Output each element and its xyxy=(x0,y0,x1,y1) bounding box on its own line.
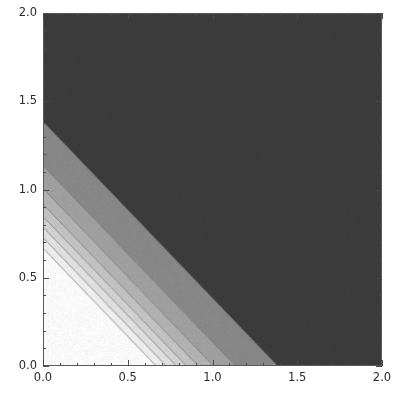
x-axis-top-tick xyxy=(196,13,197,16)
x-axis-top-tick xyxy=(213,13,214,19)
x-axis-top-tick xyxy=(60,13,61,16)
x-axis-tick xyxy=(314,363,315,366)
y-axis-right-tick xyxy=(379,348,382,349)
x-axis-top-tick xyxy=(94,13,95,16)
y-axis-tick xyxy=(43,278,49,279)
y-axis-tick xyxy=(43,101,49,102)
contour-plot-figure: 0.00.51.01.52.00.00.51.01.52.0 xyxy=(0,0,401,409)
y-axis-right-tick xyxy=(379,119,382,120)
y-axis-right-tick xyxy=(379,260,382,261)
x-axis-tick xyxy=(382,360,383,366)
x-axis-top-tick xyxy=(128,13,129,19)
y-axis-tick xyxy=(43,119,46,120)
x-axis-tick xyxy=(246,363,247,366)
y-axis-tick xyxy=(43,348,46,349)
x-axis-tick xyxy=(77,363,78,366)
x-axis-top-tick xyxy=(77,13,78,16)
y-axis-right-tick xyxy=(376,101,382,102)
y-axis-tick xyxy=(43,313,46,314)
x-axis-tick xyxy=(196,363,197,366)
y-axis-right-tick xyxy=(376,366,382,367)
y-axis-right-tick xyxy=(379,331,382,332)
y-axis-tick xyxy=(43,48,46,49)
y-axis-tick xyxy=(43,366,49,367)
y-axis-tick xyxy=(43,172,46,173)
x-axis-tick xyxy=(128,360,129,366)
x-axis-top-tick xyxy=(314,13,315,16)
x-axis-tick xyxy=(297,360,298,366)
x-axis-top-tick xyxy=(365,13,366,16)
y-axis-tick xyxy=(43,242,46,243)
y-axis-tick xyxy=(43,260,46,261)
y-axis-right-tick xyxy=(379,242,382,243)
y-axis-tick xyxy=(43,66,46,67)
y-axis-right-tick xyxy=(379,207,382,208)
y-axis-tick-label: 2.0 xyxy=(19,7,37,19)
y-axis-right-tick xyxy=(376,278,382,279)
x-axis-tick xyxy=(331,363,332,366)
y-axis-right-tick xyxy=(379,225,382,226)
y-axis-right-tick xyxy=(379,295,382,296)
x-axis-top-tick xyxy=(246,13,247,16)
x-axis-tick xyxy=(263,363,264,366)
x-axis-top-tick xyxy=(162,13,163,16)
x-axis-tick xyxy=(348,363,349,366)
y-axis-right-tick xyxy=(379,137,382,138)
x-axis-top-tick xyxy=(331,13,332,16)
y-axis-tick xyxy=(43,154,46,155)
y-axis-tick xyxy=(43,331,46,332)
x-axis-tick xyxy=(111,363,112,366)
x-axis-tick xyxy=(213,360,214,366)
x-axis-tick-label: 1.0 xyxy=(203,372,221,384)
y-axis-tick-label: 1.0 xyxy=(19,184,37,196)
x-axis-tick-label: 0.5 xyxy=(119,372,137,384)
y-axis-tick-label: 0.5 xyxy=(19,272,37,284)
y-axis-tick xyxy=(43,207,46,208)
x-axis-tick xyxy=(145,363,146,366)
x-axis-tick xyxy=(365,363,366,366)
x-axis-top-tick xyxy=(382,13,383,19)
y-axis-tick xyxy=(43,225,46,226)
y-axis-tick xyxy=(43,137,46,138)
y-axis-right-tick xyxy=(379,66,382,67)
x-axis-tick-label: 1.5 xyxy=(288,372,306,384)
y-axis-tick xyxy=(43,190,49,191)
x-axis-tick xyxy=(179,363,180,366)
x-axis-tick xyxy=(60,363,61,366)
x-axis-tick xyxy=(229,363,230,366)
x-axis-top-tick xyxy=(280,13,281,16)
contour-field xyxy=(44,14,381,365)
y-axis-right-tick xyxy=(379,154,382,155)
x-axis-top-tick xyxy=(229,13,230,16)
x-axis-top-tick xyxy=(179,13,180,16)
y-axis-right-tick xyxy=(376,190,382,191)
x-axis-tick xyxy=(280,363,281,366)
x-axis-top-tick xyxy=(297,13,298,19)
x-axis-tick xyxy=(162,363,163,366)
y-axis-right-tick xyxy=(379,31,382,32)
y-axis-tick xyxy=(43,31,46,32)
x-axis-top-tick xyxy=(348,13,349,16)
y-axis-tick xyxy=(43,84,46,85)
x-axis-top-tick xyxy=(111,13,112,16)
x-axis-tick-label: 2.0 xyxy=(373,372,391,384)
y-axis-right-tick xyxy=(379,313,382,314)
y-axis-right-tick xyxy=(379,172,382,173)
x-axis-top-tick xyxy=(145,13,146,16)
y-axis-tick-label: 0.0 xyxy=(19,360,37,372)
x-axis-tick xyxy=(94,363,95,366)
y-axis-right-tick xyxy=(379,48,382,49)
y-axis-right-tick xyxy=(379,84,382,85)
y-axis-tick xyxy=(43,295,46,296)
x-axis-top-tick xyxy=(263,13,264,16)
y-axis-tick xyxy=(43,13,49,14)
y-axis-tick-label: 1.5 xyxy=(19,96,37,108)
x-axis-tick-label: 0.0 xyxy=(34,372,52,384)
y-axis-right-tick xyxy=(376,13,382,14)
plot-frame xyxy=(43,13,382,366)
